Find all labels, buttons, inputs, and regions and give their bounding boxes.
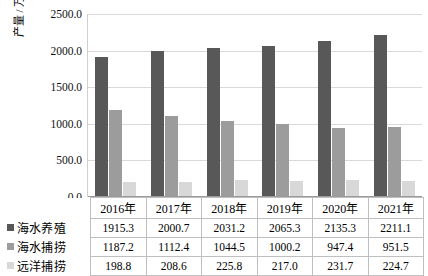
bar-group	[311, 14, 367, 197]
table-cell-value: 947.4	[313, 238, 369, 257]
y-axis-tick-label: 2500.0	[24, 9, 82, 20]
bar	[123, 182, 136, 197]
table-cell-value: 2031.2	[202, 219, 258, 238]
y-axis-tick-labels: 2500.02000.01500.01000.0500.00.0	[24, 0, 82, 198]
bar	[402, 181, 415, 197]
table-cell-value: 2000.7	[146, 219, 202, 238]
table-cell-value: 231.7	[313, 257, 369, 276]
table-cell-value: 1112.4	[146, 238, 202, 257]
legend-label: 海水养殖	[17, 222, 66, 236]
table-cell-value: 951.5	[368, 238, 424, 257]
table-cell-value: 225.8	[202, 257, 258, 276]
bar	[165, 116, 178, 197]
legend-item[interactable]: 海水养殖	[4, 219, 91, 238]
bar-group	[144, 14, 200, 197]
table-cell-value: 1915.3	[91, 219, 147, 238]
bar-group	[199, 14, 255, 197]
y-axis-tick-label: 2000.0	[24, 46, 82, 57]
table-column-header: 2019年	[257, 198, 313, 219]
y-axis-tick-label: 1500.0	[24, 82, 82, 93]
table-row: 海水养殖1915.32000.72031.22065.32135.32211.1	[4, 219, 424, 238]
y-axis-tick-label: 1000.0	[24, 119, 82, 130]
data-table-body: 2016年2017年2018年2019年2020年2021年海水养殖1915.3…	[4, 198, 424, 276]
bar	[151, 51, 164, 197]
table-cell-value: 2065.3	[257, 219, 313, 238]
bar	[388, 127, 401, 197]
bar-group	[255, 14, 311, 197]
bar	[221, 121, 234, 197]
bar	[374, 35, 387, 197]
table-column-header: 2021年	[368, 198, 424, 219]
table-row: 远洋捕捞198.8208.6225.8217.0231.7224.7	[4, 257, 424, 276]
table-cell-value: 217.0	[257, 257, 313, 276]
bar-group	[366, 14, 422, 197]
table-column-header: 2018年	[202, 198, 258, 219]
bar	[318, 41, 331, 197]
bar-groups	[88, 14, 422, 197]
plot-area	[87, 14, 422, 197]
bar	[207, 48, 220, 197]
legend-swatch-icon	[7, 262, 14, 269]
bar	[262, 46, 275, 197]
table-column-header: 2016年	[91, 198, 147, 219]
table-cell-value: 224.7	[368, 257, 424, 276]
bar	[109, 110, 122, 197]
bar	[290, 181, 303, 197]
bar-group	[88, 14, 144, 197]
legend-swatch-icon	[7, 224, 14, 231]
bar	[332, 128, 345, 197]
table-cell-value: 198.8	[91, 257, 147, 276]
table-column-header: 2020年	[313, 198, 369, 219]
table-cell-value: 1000.2	[257, 238, 313, 257]
bar	[235, 180, 248, 197]
legend-label: 海水捕捞	[17, 241, 66, 255]
table-cell-value: 1187.2	[91, 238, 147, 257]
table-corner-cell	[4, 198, 91, 219]
table-header-row: 2016年2017年2018年2019年2020年2021年	[4, 198, 424, 219]
table-row: 海水捕捞1187.21112.41044.51000.2947.4951.5	[4, 238, 424, 257]
bar	[179, 182, 192, 197]
legend-swatch-icon	[7, 243, 14, 250]
table-cell-value: 2211.1	[368, 219, 424, 238]
y-axis-tick-label: 500.0	[24, 155, 82, 166]
data-table: 2016年2017年2018年2019年2020年2021年海水养殖1915.3…	[4, 197, 424, 276]
bar	[276, 124, 289, 197]
legend-label: 远洋捕捞	[17, 260, 66, 274]
bar	[95, 57, 108, 197]
table-cell-value: 2135.3	[313, 219, 369, 238]
table-cell-value: 208.6	[146, 257, 202, 276]
bar	[346, 180, 359, 197]
table-column-header: 2017年	[146, 198, 202, 219]
legend-item[interactable]: 海水捕捞	[4, 238, 91, 257]
table-cell-value: 1044.5	[202, 238, 258, 257]
legend-item[interactable]: 远洋捕捞	[4, 257, 91, 276]
